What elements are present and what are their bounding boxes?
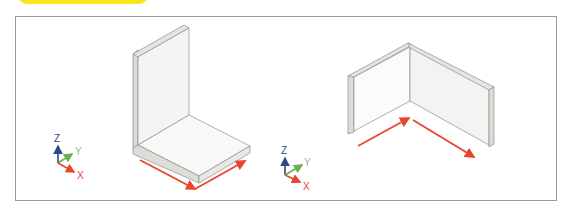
corner-wall-shape [348,43,494,147]
left-wall-end-face [348,73,354,134]
diagram-canvas: Z Y X Z Y X [0,0,572,216]
wall-edge-face [133,50,138,148]
right-wall-inner-face [410,47,489,145]
y-axis-icon [58,154,72,163]
y-axis-icon [285,165,302,175]
x-axis-icon [58,163,74,172]
x-axis-icon [285,175,300,182]
l-bracket-shape [133,25,250,183]
z-axis-label: Z [54,133,60,144]
y-axis-label: Y [75,146,82,157]
axis-triad-right: Z Y X [281,145,311,192]
x-axis-label: X [303,181,310,192]
z-axis-label: Z [281,145,287,156]
y-axis-label: Y [304,157,311,168]
right-wall-end-face [489,87,494,147]
x-axis-label: X [77,170,84,181]
axis-triad-left: Z Y X [54,133,84,181]
